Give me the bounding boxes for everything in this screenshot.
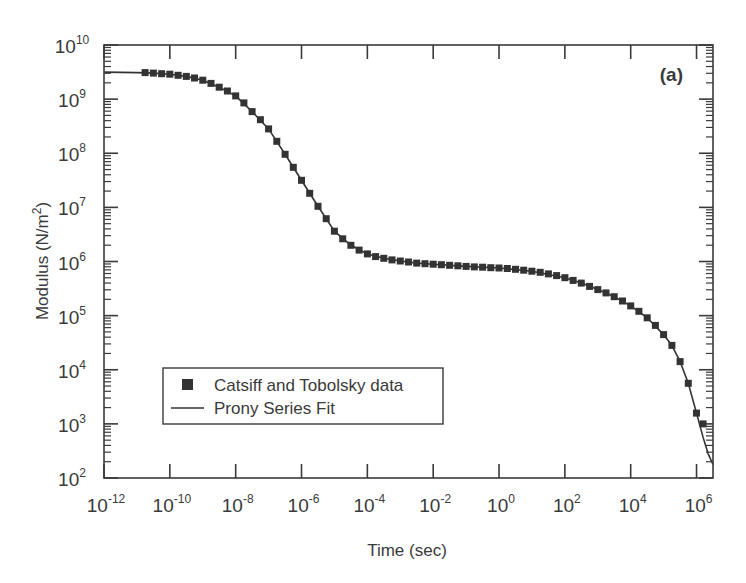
data-point-marker bbox=[438, 261, 445, 268]
data-point-marker bbox=[619, 298, 626, 305]
data-point-marker bbox=[652, 322, 659, 329]
data-point-marker bbox=[603, 289, 610, 296]
data-point-marker bbox=[232, 92, 239, 99]
tick-label: 104 bbox=[619, 492, 647, 516]
tick-label: 1010 bbox=[55, 33, 90, 57]
tick-label: 106 bbox=[58, 250, 86, 274]
svg-text:Modulus (N/m2): Modulus (N/m2) bbox=[30, 202, 52, 320]
tick-label: 10-10 bbox=[153, 492, 192, 516]
data-point-marker bbox=[545, 270, 552, 277]
tick-label: 109 bbox=[58, 87, 86, 111]
tick-label: 103 bbox=[58, 412, 86, 436]
data-point-marker bbox=[191, 75, 198, 82]
data-point-marker bbox=[570, 277, 577, 284]
data-point-marker bbox=[512, 266, 519, 273]
data-point-marker bbox=[150, 70, 157, 77]
data-point-marker bbox=[240, 99, 247, 106]
x-axis-title: Time (sec) bbox=[367, 541, 447, 560]
tick-label: 106 bbox=[685, 492, 713, 516]
data-point-marker bbox=[479, 264, 486, 271]
data-point-marker bbox=[487, 264, 494, 271]
data-point-marker bbox=[553, 272, 560, 279]
tick-label: 10-6 bbox=[288, 492, 320, 516]
data-point-marker bbox=[142, 69, 149, 76]
data-point-marker bbox=[685, 380, 692, 387]
data-point-marker bbox=[323, 215, 330, 222]
data-point-marker bbox=[339, 235, 346, 242]
data-point-marker bbox=[282, 151, 289, 158]
data-point-marker bbox=[660, 331, 667, 338]
data-point-marker bbox=[693, 410, 700, 417]
data-point-marker bbox=[496, 265, 503, 272]
panel-label: (a) bbox=[660, 64, 683, 85]
data-point-marker bbox=[422, 260, 429, 267]
data-point-marker bbox=[578, 280, 585, 287]
data-point-marker bbox=[397, 258, 404, 265]
tick-label: 102 bbox=[58, 466, 86, 490]
data-point-marker bbox=[364, 250, 371, 257]
tick-label: 10-8 bbox=[222, 492, 254, 516]
legend: Catsiff and Tobolsky data Prony Series F… bbox=[163, 368, 443, 424]
data-point-marker bbox=[224, 88, 231, 95]
data-point-marker bbox=[561, 274, 568, 281]
data-point-marker bbox=[372, 253, 379, 260]
data-point-marker bbox=[644, 314, 651, 321]
tick-label: 100 bbox=[487, 492, 515, 516]
data-point-marker bbox=[183, 73, 190, 80]
data-point-marker bbox=[611, 293, 618, 300]
legend-label-fit: Prony Series Fit bbox=[214, 399, 335, 418]
tick-label: 10-2 bbox=[419, 492, 451, 516]
data-point-marker bbox=[166, 71, 173, 78]
tick-label: 104 bbox=[58, 358, 86, 382]
tick-label: 107 bbox=[58, 195, 86, 219]
data-point-marker bbox=[347, 242, 354, 249]
data-point-marker bbox=[265, 125, 272, 132]
data-point-marker bbox=[627, 302, 634, 309]
data-point-marker bbox=[208, 80, 215, 87]
data-point-marker bbox=[430, 261, 437, 268]
data-point-marker bbox=[306, 190, 313, 197]
data-point-marker bbox=[504, 265, 511, 272]
tick-label: 105 bbox=[58, 304, 86, 328]
data-point-marker bbox=[389, 256, 396, 263]
tick-label: 108 bbox=[58, 141, 86, 165]
data-point-marker bbox=[175, 72, 182, 79]
modulus-vs-time-chart: 102103104105106107108109101010-1210-1010… bbox=[0, 0, 746, 583]
data-point-marker bbox=[668, 342, 675, 349]
data-point-marker bbox=[528, 268, 535, 275]
data-point-marker bbox=[700, 420, 707, 427]
data-point-marker bbox=[537, 269, 544, 276]
y-axis-title-tail: ) bbox=[33, 202, 52, 208]
data-point-marker bbox=[405, 259, 412, 266]
data-point-marker bbox=[158, 70, 165, 77]
data-point-marker bbox=[454, 262, 461, 269]
data-point-marker bbox=[257, 116, 264, 123]
y-axis-title-base: Modulus (N/m bbox=[33, 214, 52, 320]
data-point-marker bbox=[331, 228, 338, 235]
data-point-marker bbox=[380, 255, 387, 262]
data-point-marker bbox=[677, 358, 684, 365]
tick-label: 102 bbox=[553, 492, 581, 516]
data-point-marker bbox=[463, 263, 470, 270]
y-axis-title: Modulus (N/m2) bbox=[30, 202, 52, 320]
legend-label-data: Catsiff and Tobolsky data bbox=[214, 376, 404, 395]
data-point-marker bbox=[290, 164, 297, 171]
legend-marker-square-icon bbox=[182, 379, 193, 390]
data-point-marker bbox=[298, 177, 305, 184]
data-point-marker bbox=[413, 260, 420, 267]
data-point-marker bbox=[315, 203, 322, 210]
data-point-marker bbox=[471, 263, 478, 270]
data-point-marker bbox=[199, 77, 206, 84]
data-point-marker bbox=[520, 267, 527, 274]
tick-label: 10-4 bbox=[353, 492, 385, 516]
data-point-marker bbox=[273, 138, 280, 145]
data-point-marker bbox=[635, 308, 642, 315]
data-point-marker bbox=[356, 247, 363, 254]
data-point-marker bbox=[216, 84, 223, 91]
data-point-marker bbox=[586, 283, 593, 290]
data-point-marker bbox=[594, 286, 601, 293]
tick-labels: 102103104105106107108109101010-1210-1010… bbox=[55, 33, 713, 516]
tick-label: 10-12 bbox=[87, 492, 126, 516]
data-point-marker bbox=[249, 108, 256, 115]
data-point-marker bbox=[446, 262, 453, 269]
